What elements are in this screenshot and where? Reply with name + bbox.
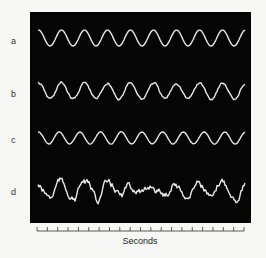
trace-a [38, 30, 245, 46]
time-axis [37, 227, 244, 231]
traces-svg [0, 0, 266, 258]
trace-d [38, 178, 245, 204]
trace-b [38, 82, 245, 100]
trace-c [38, 132, 245, 144]
x-axis-title: Seconds [0, 236, 266, 246]
trace-group [38, 30, 245, 204]
